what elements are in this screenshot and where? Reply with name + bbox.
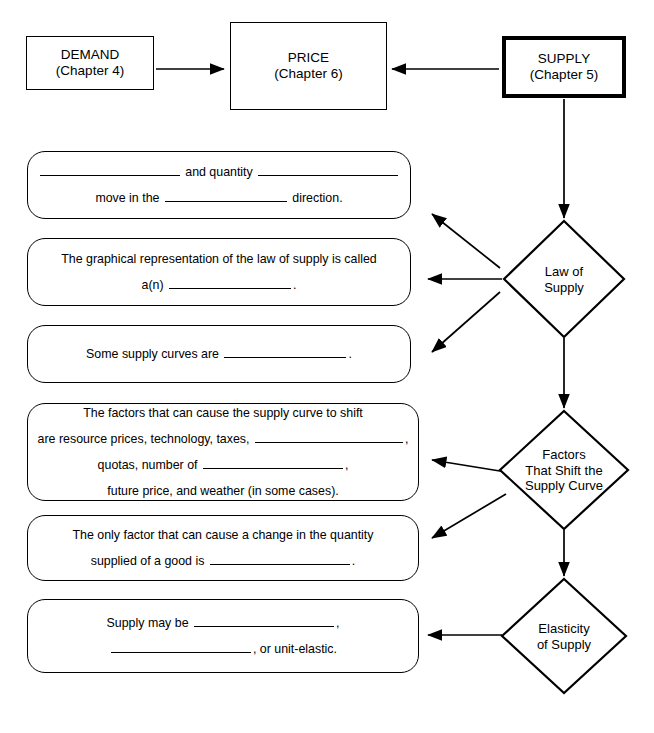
statement-line: supplied of a good is . <box>91 548 356 574</box>
statement-text: , <box>336 616 339 630</box>
statement-box-6[interactable]: Supply may be ,, or unit-elastic. <box>27 599 419 673</box>
statement-text: and quantity <box>182 165 256 179</box>
node-demand-title: DEMAND <box>61 47 120 63</box>
statement-box-2[interactable]: The graphical representation of the law … <box>27 238 411 306</box>
statement-line: are resource prices, technology, taxes, … <box>38 426 409 452</box>
statement-line: move in the direction. <box>95 185 342 211</box>
statement-text: are resource prices, technology, taxes, <box>38 432 253 446</box>
node-law-of-supply[interactable]: Law of Supply <box>502 219 626 339</box>
statement-line: The factors that can cause the supply cu… <box>83 400 363 426</box>
arrow-law-to-statement-1 <box>432 214 500 268</box>
statement-line: and quantity <box>38 159 400 185</box>
statement-text: Some supply curves are <box>86 347 222 361</box>
node-demand[interactable]: DEMAND (Chapter 4) <box>26 36 154 90</box>
node-supply-title: SUPPLY <box>538 51 590 67</box>
answer-blank[interactable] <box>203 455 343 469</box>
statement-box-5[interactable]: The only factor that can cause a change … <box>27 515 419 581</box>
statement-line: Supply may be , <box>107 610 340 636</box>
statement-text: Supply may be <box>107 616 192 630</box>
statement-text: . <box>293 278 296 292</box>
node-elasticity-of-supply[interactable]: Elasticity of Supply <box>500 577 628 695</box>
statement-text: The factors that can cause the supply cu… <box>83 406 363 420</box>
answer-blank[interactable] <box>169 275 291 289</box>
statement-box-3[interactable]: Some supply curves are . <box>27 325 411 383</box>
statement-text: . <box>352 554 355 568</box>
statement-text: a(n) <box>142 278 167 292</box>
answer-blank[interactable] <box>194 613 334 627</box>
statement-text: future price, and weather (in some cases… <box>107 484 338 498</box>
answer-blank[interactable] <box>40 162 180 176</box>
node-supply[interactable]: SUPPLY (Chapter 5) <box>502 36 626 98</box>
statement-text: quotas, number of <box>98 458 201 472</box>
statement-box-4[interactable]: The factors that can cause the supply cu… <box>27 403 419 501</box>
statement-line: a(n) . <box>142 272 297 298</box>
statement-text: The only factor that can cause a change … <box>72 528 373 542</box>
statement-line: future price, and weather (in some cases… <box>107 478 338 504</box>
statement-text: , or unit-elastic. <box>253 642 337 656</box>
statement-text: move in the <box>95 191 163 205</box>
statement-line: quotas, number of , <box>98 452 349 478</box>
answer-blank[interactable] <box>224 344 346 358</box>
arrow-factors-to-statement-5 <box>432 494 506 538</box>
elasticity-of-supply-label: Elasticity of Supply <box>500 621 628 652</box>
statement-text: The graphical representation of the law … <box>61 252 376 266</box>
statement-line: The only factor that can cause a change … <box>72 522 373 548</box>
statement-text: , <box>405 432 408 446</box>
statement-box-1[interactable]: and quantity move in the direction. <box>27 151 411 219</box>
law-of-supply-label: Law of Supply <box>502 264 626 295</box>
arrow-law-to-statement-3 <box>432 292 500 352</box>
node-demand-subtitle: (Chapter 4) <box>56 63 124 79</box>
statement-text: supplied of a good is <box>91 554 208 568</box>
statement-line: , or unit-elastic. <box>109 636 337 662</box>
statement-line: The graphical representation of the law … <box>61 246 376 272</box>
node-price-subtitle: (Chapter 6) <box>274 66 342 82</box>
answer-blank[interactable] <box>210 551 350 565</box>
arrow-factors-to-statement-4 <box>432 460 506 472</box>
answer-blank[interactable] <box>111 639 251 653</box>
statement-text: direction. <box>289 191 343 205</box>
statement-text: , <box>345 458 348 472</box>
factors-that-shift-label: Factors That Shift the Supply Curve <box>498 447 630 494</box>
node-supply-subtitle: (Chapter 5) <box>530 67 598 83</box>
answer-blank[interactable] <box>165 188 287 202</box>
node-price[interactable]: PRICE (Chapter 6) <box>230 22 387 110</box>
node-factors-that-shift[interactable]: Factors That Shift the Supply Curve <box>498 409 630 531</box>
node-price-title: PRICE <box>288 50 329 66</box>
answer-blank[interactable] <box>255 429 403 443</box>
statement-line: Some supply curves are . <box>86 341 352 367</box>
diagram-canvas: DEMAND (Chapter 4) PRICE (Chapter 6) SUP… <box>0 0 654 733</box>
answer-blank[interactable] <box>258 162 398 176</box>
statement-text: . <box>348 347 351 361</box>
